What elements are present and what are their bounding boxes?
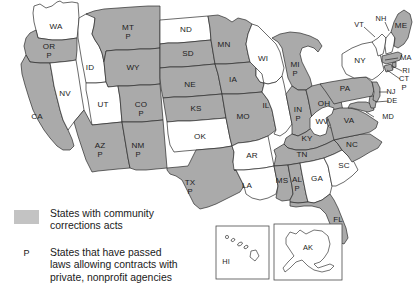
state-TX[interactable] [167,146,244,209]
state-p-marker-NM: P [135,150,140,159]
state-label-ME: ME [395,21,408,30]
state-label-FL: FL [333,215,343,224]
inset-label-AK: AK [303,243,313,252]
state-label-NJ: NJ [386,87,395,96]
leader-line-NH [385,22,389,31]
state-label-MS: MS [276,176,289,185]
state-label-PA: PA [340,84,351,93]
state-p-marker-OR: P [46,51,51,60]
state-label-MI: MI [290,60,299,69]
state-label-WY: WY [126,63,140,72]
state-label-VT: VT [354,20,364,29]
state-label-KS: KS [191,104,202,113]
state-p-marker-AZ: P [97,150,102,159]
state-label-AR: AR [246,151,257,160]
state-label-OK: OK [194,132,206,141]
state-label-WI: WI [258,54,268,63]
state-label-MD: MD [382,112,394,121]
state-label-NC: NC [346,140,358,149]
state-label-IL: IL [263,101,270,110]
state-label-AL: AL [292,175,302,184]
state-label-KY: KY [302,134,313,143]
state-label-GA: GA [311,174,323,183]
leader-line-RI [392,66,402,71]
state-p-marker-CO: P [138,109,143,118]
us-map-svg: WAORPCANVIDMTPWYUTCOPAZPNMPNDSDNEKSOKTXP… [0,0,416,291]
state-p-marker-MI: P [292,69,297,78]
state-label-CA: CA [31,112,43,121]
state-NM[interactable] [122,120,167,170]
state-p-marker-CT: P [401,83,406,92]
state-label-NY: NY [354,56,366,65]
state-label-RI: RI [402,66,410,75]
state-label-UT: UT [98,100,109,109]
state-label-CT: CT [399,74,409,83]
state-label-ID: ID [86,63,94,72]
state-label-MA: MA [400,53,411,62]
state-p-marker-MT: P [125,32,130,41]
state-label-SD: SD [182,49,193,58]
state-label-TX: TX [185,178,196,187]
us-map-figure: WAORPCANVIDMTPWYUTCOPAZPNMPNDSDNEKSOKTXP… [0,0,416,291]
state-label-TN: TN [297,150,308,159]
state-p-marker-TX: P [187,187,192,196]
hawaii-inset-box [216,226,269,279]
state-label-SC: SC [338,161,349,170]
state-label-MO: MO [236,112,249,121]
state-label-WV: WV [315,117,329,126]
state-p-marker-IN: P [295,114,300,123]
leader-line-VT [364,27,375,37]
state-label-VA: VA [344,116,355,125]
state-label-MT: MT [122,23,134,32]
state-label-IA: IA [229,75,237,84]
state-label-CO: CO [135,100,147,109]
state-label-WA: WA [50,22,63,31]
state-label-NM: NM [132,141,145,150]
state-label-AZ: AZ [95,141,106,150]
state-label-NV: NV [59,89,71,98]
state-label-MN: MN [218,40,231,49]
state-label-IN: IN [294,105,302,114]
state-label-NE: NE [184,80,196,89]
inset-label-HI: HI [222,257,230,266]
state-label-OH: OH [318,99,330,108]
state-label-DE: DE [387,96,397,105]
state-label-OR: OR [43,42,55,51]
state-label-NH: NH [376,14,387,23]
state-p-marker-AL: P [294,184,299,193]
state-label-LA: LA [242,181,253,190]
state-MA[interactable] [382,52,402,64]
state-WA[interactable] [33,1,79,40]
state-label-ND: ND [180,25,192,34]
